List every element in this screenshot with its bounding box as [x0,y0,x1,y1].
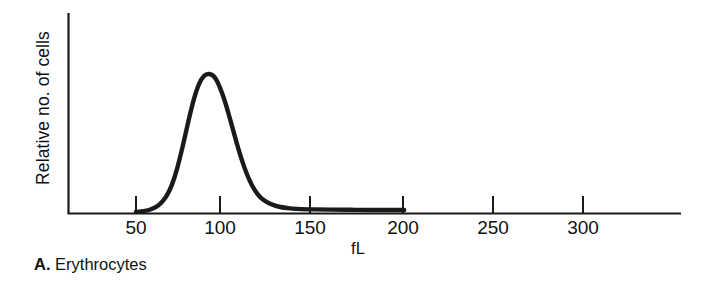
x-tick-label-100: 100 [190,218,250,238]
x-tick-label-50: 50 [106,218,166,238]
panel-letter: A. [34,255,51,273]
x-tick-label-300: 300 [553,218,613,238]
figure-panel-a: Relative no. of cells 50 100 150 200 250… [0,0,704,286]
x-tick-label-250: 250 [463,218,523,238]
panel-title: Erythrocytes [55,255,147,273]
x-tick-label-200: 200 [373,218,433,238]
x-axis-label: fL [328,240,388,257]
panel-caption: A. Erythrocytes [34,255,147,273]
data-curve-erythrocytes [136,74,404,212]
x-tick-label-150: 150 [280,218,340,238]
